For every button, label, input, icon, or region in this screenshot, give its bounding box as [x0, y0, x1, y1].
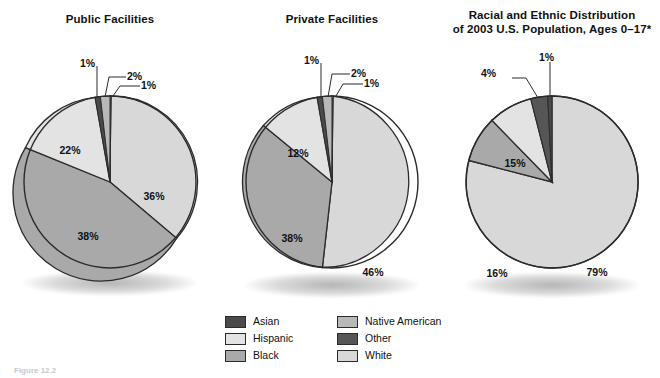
figure-caption: Figure 12.2 [14, 366, 56, 376]
slice-label-white: 79% [586, 266, 607, 278]
callout-asian-1: 1% [80, 58, 95, 69]
pie-wrap-population: 4% 1% 79% 16% 15% [442, 0, 660, 320]
legend-label-white: White [365, 350, 392, 361]
chart-panel-us-population-2003: Racial and Ethnic Distribution of 2003 U… [442, 0, 660, 320]
legend-item-other: Other [337, 330, 441, 347]
legend-item-white: White [337, 347, 441, 364]
chart-panel-public-facilities: Public Facilities [0, 0, 220, 320]
pie-chart-public [0, 75, 220, 295]
legend-swatch-other [337, 333, 358, 345]
slice-label-black: 16% [486, 267, 507, 279]
legend-label-other: Other [365, 333, 391, 344]
figure-three-pie-charts: Public Facilities [0, 0, 660, 378]
legend-swatch-white [337, 350, 358, 362]
slice-label-black: 38% [77, 230, 98, 242]
slice-label-white: 46% [362, 266, 383, 278]
legend-item-black: Black [225, 347, 293, 364]
pie-chart-private [222, 75, 442, 295]
callout-leader-lines [512, 62, 550, 98]
legend-item-hispanic: Hispanic [225, 330, 293, 347]
legend-swatch-hispanic [225, 333, 246, 345]
legend-label-black: Black [253, 350, 279, 361]
legend-item-native-american: Native American [337, 313, 441, 330]
legend-label-native-american: Native American [365, 316, 441, 327]
legend-swatch-native-american [337, 316, 358, 328]
legend-label-asian: Asian [253, 316, 279, 327]
pie-slice-white [322, 96, 408, 268]
legend-label-hispanic: Hispanic [253, 333, 293, 344]
callout-asian-1: 1% [304, 55, 319, 66]
callout-other-1: 1% [364, 78, 379, 89]
slice-label-hispanic: 15% [504, 157, 525, 169]
callout-other-1: 1% [141, 80, 156, 91]
callout-other-4: 4% [481, 68, 496, 79]
slice-label-hispanic: 22% [59, 144, 80, 156]
slice-label-black: 38% [281, 232, 302, 244]
callout-native-american-2: 2% [127, 71, 142, 82]
chart-legend: Asian Hispanic Black Native American Oth… [225, 313, 455, 365]
legend-swatch-black [225, 350, 246, 362]
chart-panel-private-facilities: Private Facilities [222, 0, 442, 320]
slice-label-hispanic: 12% [287, 147, 308, 159]
legend-item-asian: Asian [225, 313, 293, 330]
pie-wrap-public: 1% 2% 1% 36% 38% 22% [0, 0, 220, 320]
callout-asian-1: 1% [539, 52, 554, 63]
legend-column-right: Native American Other White [337, 313, 441, 364]
pie-chart-population [442, 75, 660, 295]
pie-wrap-private: 1% 2% 1% 46% 38% 12% [222, 0, 442, 320]
legend-column-left: Asian Hispanic Black [225, 313, 293, 364]
slice-label-white: 36% [143, 190, 164, 202]
legend-swatch-asian [225, 316, 246, 328]
